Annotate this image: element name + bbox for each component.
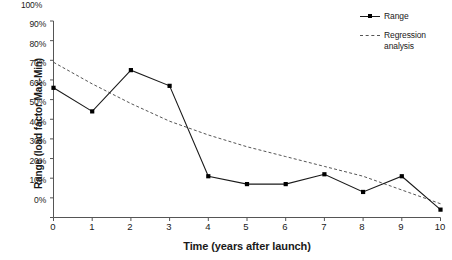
data-point-marker bbox=[51, 86, 55, 90]
x-tick-label-10: 10 bbox=[428, 222, 452, 232]
data-point-marker bbox=[284, 182, 288, 186]
data-point-marker bbox=[168, 84, 172, 88]
x-tick-label-8: 8 bbox=[350, 222, 374, 232]
data-point-marker bbox=[129, 68, 133, 72]
chart-figure: Range (load factor Max-Min) Time (years … bbox=[0, 0, 452, 260]
data-point-marker bbox=[90, 109, 94, 113]
x-axis-title: Time (years after launch) bbox=[53, 240, 441, 252]
x-tick-label-5: 5 bbox=[234, 222, 258, 232]
data-point-marker bbox=[206, 174, 210, 178]
x-tick-label-2: 2 bbox=[118, 222, 142, 232]
x-tick-label-1: 1 bbox=[80, 222, 104, 232]
legend-item-range: Range bbox=[360, 11, 452, 24]
legend-item-regression-analysis: Regression analysis bbox=[360, 30, 452, 43]
legend-label-range: Range bbox=[384, 11, 452, 22]
data-point-marker bbox=[400, 174, 404, 178]
x-tick-label-4: 4 bbox=[196, 222, 220, 232]
x-tick-label-9: 9 bbox=[389, 222, 413, 232]
y-tick-label-90: 90% bbox=[10, 20, 46, 29]
x-tick-label-7: 7 bbox=[312, 222, 336, 232]
y-tick-label-20: 20% bbox=[10, 157, 46, 166]
y-axis-ticks bbox=[50, 21, 54, 218]
y-tick-label-80: 80% bbox=[10, 40, 46, 49]
series-range-markers bbox=[51, 68, 442, 212]
y-tick-label-30: 30% bbox=[10, 137, 46, 146]
data-point-marker bbox=[245, 182, 249, 186]
axis-lines bbox=[54, 21, 441, 218]
y-tick-label-10: 10% bbox=[10, 176, 46, 185]
data-point-marker bbox=[322, 172, 326, 176]
x-tick-label-0: 0 bbox=[41, 222, 65, 232]
y-tick-label-40: 40% bbox=[10, 118, 46, 127]
chart-legend: Range Regression analysis bbox=[360, 11, 452, 46]
data-point-marker bbox=[361, 190, 365, 194]
x-tick-label-6: 6 bbox=[273, 222, 297, 232]
legend-square-marker-icon bbox=[368, 14, 372, 18]
data-point-marker bbox=[438, 208, 442, 212]
y-tick-label-0: 0% bbox=[10, 196, 46, 205]
legend-label-regression-analysis: Regression analysis bbox=[384, 30, 452, 52]
y-tick-label-50: 50% bbox=[10, 98, 46, 107]
legend-line-dashed-icon bbox=[360, 35, 380, 36]
series-range-line bbox=[54, 70, 441, 210]
y-tick-label-70: 70% bbox=[10, 59, 46, 68]
y-tick-label-100: 100% bbox=[6, 1, 42, 10]
x-tick-label-3: 3 bbox=[157, 222, 181, 232]
y-tick-label-60: 60% bbox=[10, 79, 46, 88]
